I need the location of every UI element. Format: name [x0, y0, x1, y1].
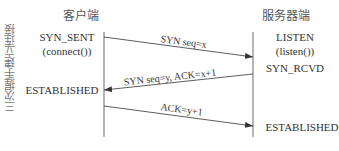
message-ack: ACK=y+1: [104, 101, 253, 126]
message-syn: SYN seq=x: [104, 33, 253, 57]
message-syn-ack: SYN seq=y, ACK=x+1: [104, 67, 253, 90]
message-ack-label: ACK=y+1: [160, 101, 203, 118]
handshake-diagram: SYN seq=x SYN seq=y, ACK=x+1 ACK=y+1: [0, 0, 339, 151]
message-syn-ack-label: SYN seq=y, ACK=x+1: [123, 67, 216, 88]
